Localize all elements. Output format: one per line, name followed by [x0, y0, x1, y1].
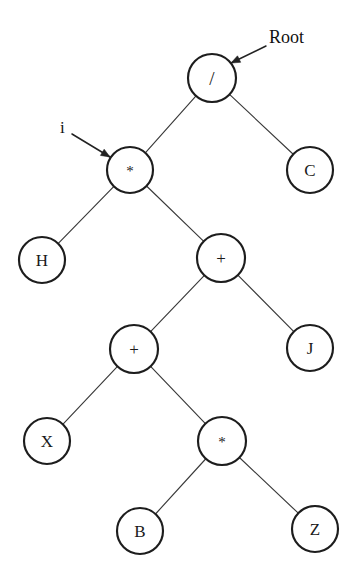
annotation-arrow-head-icon — [231, 56, 241, 63]
tree-node-b[interactable]: B — [117, 508, 163, 554]
annotation-root: Root — [231, 27, 304, 63]
tree-edge-div-to-c — [230, 94, 294, 154]
node-label: X — [41, 432, 53, 451]
node-label: Z — [310, 520, 320, 539]
annotation-label: Root — [269, 27, 304, 47]
tree-edge-plus1-to-plus2 — [151, 275, 205, 331]
tree-node-c[interactable]: C — [287, 147, 333, 193]
tree-node-h[interactable]: H — [19, 237, 65, 283]
node-label: B — [134, 522, 145, 541]
nodes-layer: /*CH++JX*BZ — [19, 54, 338, 554]
annotation-arrow-head-icon — [100, 149, 110, 157]
tree-node-z[interactable]: Z — [292, 506, 338, 552]
edges-layer — [58, 94, 298, 514]
annotation-i: i — [60, 118, 110, 157]
expression-tree-diagram: /*CH++JX*BZ Rooti — [0, 0, 361, 577]
tree-node-plus2[interactable]: + — [110, 325, 158, 373]
node-label: + — [216, 249, 226, 268]
tree-edge-mul1-to-h — [58, 186, 114, 243]
node-label: * — [218, 434, 226, 450]
tree-node-mul2[interactable]: * — [198, 417, 246, 465]
node-label: C — [304, 161, 315, 180]
tree-edge-plus1-to-j — [238, 275, 294, 332]
tree-edge-plus2-to-mul2 — [151, 366, 206, 423]
annotation-label: i — [60, 118, 65, 137]
tree-node-j[interactable]: J — [287, 325, 333, 371]
tree-edge-mul1-to-plus1 — [147, 186, 204, 241]
tree-edge-mul2-to-b — [155, 459, 205, 514]
annotations-layer: Rooti — [60, 27, 304, 157]
tree-edge-mul2-to-z — [239, 458, 298, 514]
node-label: * — [126, 163, 134, 179]
tree-node-div[interactable]: / — [188, 54, 236, 102]
node-label: H — [36, 251, 48, 270]
tree-node-plus1[interactable]: + — [197, 234, 245, 282]
node-label: / — [209, 68, 215, 89]
tree-canvas: /*CH++JX*BZ Rooti — [0, 0, 361, 577]
node-label: + — [129, 340, 139, 359]
tree-node-x[interactable]: X — [24, 418, 70, 464]
tree-edge-plus2-to-x — [63, 366, 118, 424]
tree-edge-div-to-mul1 — [145, 96, 196, 153]
tree-node-mul1[interactable]: * — [107, 147, 153, 193]
node-label: J — [307, 339, 314, 358]
